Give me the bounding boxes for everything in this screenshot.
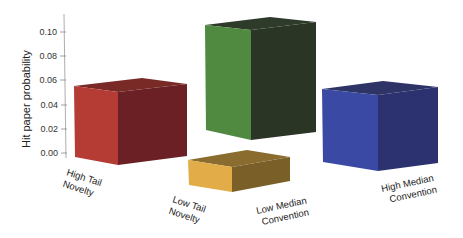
y-tick-label: 0.00 — [40, 148, 58, 158]
y-tick-label: 0.06 — [39, 75, 57, 85]
bar-high-median-convention — [322, 81, 438, 171]
bar-low-median-convention — [205, 17, 316, 140]
y-tick-label: 0.10 — [39, 27, 57, 37]
category-label-low-tail-novelty: Low Tail Novelty — [168, 193, 208, 225]
category-label-low-median-convention: Low Median Convention — [255, 195, 310, 228]
bar-low-tail-novelty — [188, 150, 290, 192]
category-label-high-median-convention: High Median Convention — [380, 172, 438, 206]
y-axis-label: Hit paper probability — [20, 50, 32, 148]
category-label-high-tail-novelty: High Tail Novelty — [62, 166, 104, 199]
chart-canvas: 0.10 0.08 0.06 0.04 0.02 0.00 Hit paper … — [0, 0, 463, 238]
bar-high-tail-novelty — [74, 78, 187, 165]
y-axis: 0.10 0.08 0.06 0.04 0.02 0.00 Hit paper … — [20, 14, 67, 158]
y-tick-label: 0.02 — [40, 124, 58, 134]
y-tick-label: 0.04 — [40, 100, 58, 110]
y-tick-label: 0.08 — [39, 51, 57, 61]
